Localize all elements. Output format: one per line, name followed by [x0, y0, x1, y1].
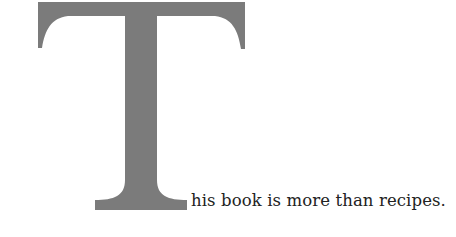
- paragraph-text: his book is more than recipes.: [191, 191, 446, 210]
